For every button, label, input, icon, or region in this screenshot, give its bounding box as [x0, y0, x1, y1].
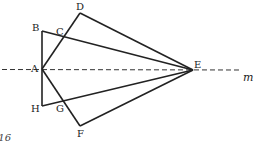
label-F: F [77, 128, 84, 139]
label-G: G [56, 103, 64, 114]
label-D: D [76, 1, 84, 12]
label-m: m [243, 71, 253, 84]
label-H: H [31, 103, 40, 114]
figure-caption: 316 [0, 132, 12, 142]
geometry-figure: A B C D E F G H m 316 [0, 0, 254, 142]
segment-AD [42, 13, 80, 69]
label-A: A [30, 63, 39, 74]
label-E: E [194, 59, 201, 70]
segment-FE [80, 70, 193, 126]
label-B: B [32, 22, 39, 33]
segment-HE [42, 70, 193, 106]
segment-DE [80, 13, 193, 70]
label-C: C [56, 26, 64, 37]
